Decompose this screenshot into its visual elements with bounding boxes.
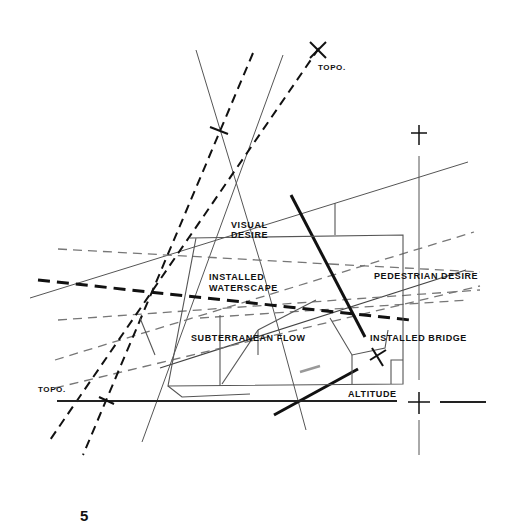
figure-number: 5 — [80, 507, 88, 524]
black-dashed-line-topo — [50, 48, 319, 440]
label-subterranean-flow: SUBTERRANEAN FLOW — [191, 333, 306, 343]
thin-line-steep-left — [142, 55, 283, 442]
label-waterscape: WATERSCAPE — [209, 283, 278, 293]
water-detail — [300, 366, 320, 372]
label-altitude: ALTITUDE — [348, 389, 397, 399]
building-left-slant — [140, 318, 155, 355]
altitude-heavy-line — [274, 369, 358, 415]
building-base-skirt — [168, 386, 250, 397]
pedestrian-desire-solid-line — [160, 270, 466, 368]
label-topo-top: TOPO. — [318, 63, 346, 72]
label-installed-bridge: INSTALLED BRIDGE — [370, 333, 467, 343]
installed-bridge-line — [291, 195, 365, 337]
gray-dashed-horizontal-3 — [200, 300, 468, 318]
label-visual: VISUAL — [231, 220, 268, 230]
building-step — [391, 360, 403, 384]
tick-mark-upper — [210, 127, 228, 134]
label-installed: INSTALLED — [209, 272, 264, 282]
label-pedestrian-desire: PEDESTRIAN DESIRE — [374, 271, 478, 281]
building-outline — [168, 235, 403, 386]
label-desire: DESIRE — [231, 230, 268, 240]
site-analysis-diagram: VISUAL DESIRE INSTALLED WATERSCAPE PEDES… — [0, 0, 517, 532]
label-topo-left: TOPO. — [38, 385, 66, 394]
